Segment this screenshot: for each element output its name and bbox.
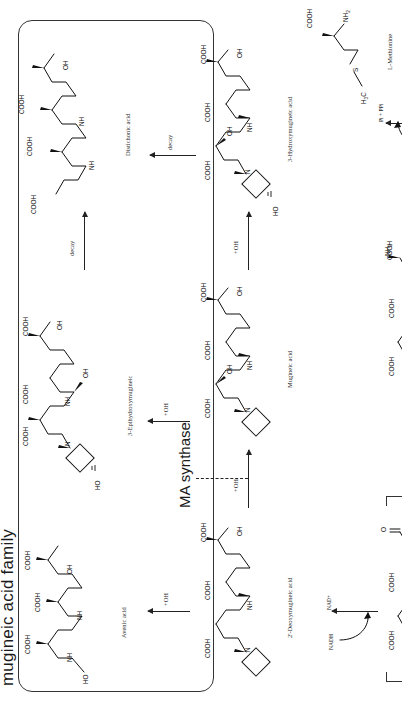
atom-label-n-hma: N (244, 169, 251, 174)
atom-label-nh-dist-1: NH (88, 161, 95, 170)
arrow-decay-2 (150, 155, 196, 156)
atom-label-cooh-hma-1: COOH (204, 161, 211, 180)
molecule-mugineic-acid (212, 284, 274, 434)
atom-label-cooh-epi-3: COOH (22, 317, 29, 336)
molecule-oxo-acid (396, 514, 402, 666)
molecule-deoxymugineic-acid (212, 524, 274, 674)
atom-label-oh-avenic: OH (66, 564, 73, 574)
reaction-label-hydroxyl-2: +OH (162, 593, 169, 606)
atom-label-n-epi: N (64, 441, 71, 446)
atom-label-nh-epi: NH (64, 397, 71, 406)
atom-label-oh-dma: OH (236, 526, 243, 536)
atom-label-ho-avenic: HO (82, 674, 89, 684)
cofactor-label-pi-ppi: Pi + PPi (378, 104, 384, 122)
arrow-hydroxyl-2 (148, 611, 190, 612)
compound-label-deoxymugineic-acid: 2'-Deoxymugineic acid (286, 577, 293, 638)
atom-label-oh-epi-2: OH (56, 320, 63, 330)
atom-label-cooh-dist-3: COOH (18, 95, 25, 114)
atom-label-oh-hma-2: OH (236, 48, 243, 58)
atom-label-ho-epi: HO (94, 480, 101, 490)
reaction-label-decay-2: decay (166, 135, 173, 150)
atom-label-h3c-met: H3C (360, 92, 369, 104)
atom-label-cooh-na-1: COOH (388, 357, 395, 376)
molecule-avenic-acid (32, 526, 94, 678)
atom-label-cooh-met: COOH (306, 9, 313, 28)
atom-label-oh-dist: OH (62, 60, 69, 70)
figure-title: mugineic acid family (0, 529, 18, 686)
atom-label-nh-avenic-2: NH (76, 611, 83, 620)
atom-label-cooh-dma-1: COOH (204, 639, 211, 658)
enzyme-pointer-ma-synthase (196, 478, 248, 479)
atom-label-nh2-met: NH2 (342, 10, 351, 22)
atom-label-cooh-dist-2: COOH (26, 137, 33, 156)
atom-label-nh-dma: NH (246, 601, 253, 610)
reaction-label-hydroxyl-3: +OH (162, 403, 169, 416)
atom-label-oh-ma-2: OH (236, 286, 243, 296)
atom-label-n-dma: N (244, 647, 251, 652)
compound-label-l-methionine: L-Methionine (386, 34, 393, 70)
reaction-label-hydroxyl-4: +OH (232, 241, 239, 254)
arrow-decay-1 (84, 212, 85, 270)
atom-label-cooh-ma-2: COOH (204, 341, 211, 360)
arrow-hydroxyl-4 (248, 212, 249, 270)
atom-label-cooh-ma-1: COOH (204, 399, 211, 418)
atom-label-s-met: S (352, 68, 359, 72)
bracket-left-oxo-acid (386, 672, 402, 682)
atom-label-cooh-hma-2: COOH (204, 103, 211, 122)
atom-label-oh-ma-1: OH (226, 364, 233, 374)
cofactor-curve-nadh (338, 604, 378, 644)
atom-label-nh-avenic-1: NH (66, 653, 73, 662)
atom-label-nh-hma: NH (246, 123, 253, 132)
atom-label-cooh-na-2: COOH (388, 299, 395, 318)
molecule-hydroxymugineic-acid (212, 46, 274, 196)
atom-label-n-ma: N (244, 407, 251, 412)
atom-label-oh-hma-1: OH (226, 126, 233, 136)
atom-label-cooh-dist-1: COOH (30, 195, 37, 214)
compound-label-epihydroxymugineic: 3-Epihydroxymugineic (126, 376, 133, 436)
atom-label-cooh-dma-2: COOH (204, 581, 211, 600)
atom-label-cooh-avenic-3: COOH (24, 551, 31, 570)
reaction-label-hydroxyl-1: +OH (232, 479, 239, 492)
enzyme-label-ma-synthase: MA synthase (176, 422, 193, 508)
cofactor-label-nadh: NADH (328, 634, 334, 650)
bracket-right-oxo-acid (386, 496, 402, 506)
atom-label-cooh-ma-3: COOH (200, 283, 207, 302)
atom-label-cooh-epi-2: COOH (22, 385, 29, 404)
compound-label-hydroxymugineic-acid: 3-Hydroxymugineic acid (286, 97, 293, 162)
atom-label-cooh-oxo-2: COOH (388, 573, 395, 592)
cofactor-curve-atp (392, 110, 402, 156)
arrow-ma-synthase (248, 450, 249, 508)
atom-label-cooh-avenic-1: COOH (24, 635, 31, 654)
molecule-nicotianamine (396, 242, 402, 392)
atom-label-cooh-dma-3: COOH (200, 523, 207, 542)
atom-label-ho-hma: HO (272, 206, 279, 216)
atom-label-cooh-epi-1: COOH (22, 427, 29, 446)
compound-label-mugineic-acid: Mugineic acid (286, 351, 293, 388)
atom-label-cooh-avenic-2: COOH (34, 593, 41, 612)
cofactor-label-nad: NAD+ (326, 595, 332, 610)
molecule-epihydroxymugineic (30, 312, 100, 472)
atom-label-cooh-na-3: COOH (386, 241, 393, 260)
atom-label-o-oxo: O (380, 527, 387, 532)
atom-label-nh-ma: NH (246, 361, 253, 370)
compound-label-distichonic-acid: Distichonic acid (124, 114, 131, 156)
figure-canvas: mugineic acid family HO NH COOH NH COOH … (0, 0, 402, 722)
reaction-label-decay-1: decay (68, 241, 75, 256)
atom-label-cooh-hma-3: COOH (200, 45, 207, 64)
atom-label-cooh-oxo-1: COOH (388, 631, 395, 650)
compound-label-avenic-acid: Avenic acid (120, 607, 127, 638)
atom-label-oh-epi: OH (82, 368, 89, 378)
atom-label-nh-dist-2: NH (78, 117, 85, 126)
